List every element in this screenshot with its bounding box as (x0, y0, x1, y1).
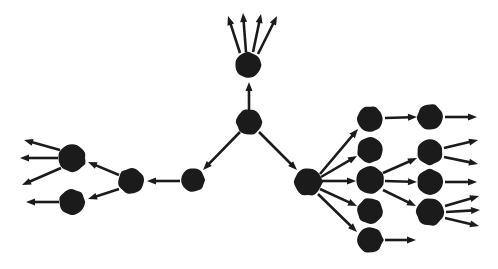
diagram-background (0, 0, 498, 269)
node-graph-canvas (0, 0, 498, 269)
edge-shaft (385, 117, 410, 118)
edge-shaft (385, 181, 410, 182)
edge-shaft (446, 210, 473, 212)
diagram-root (0, 0, 498, 269)
